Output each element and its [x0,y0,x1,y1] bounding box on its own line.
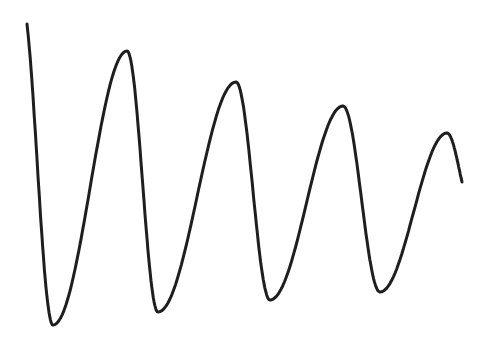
oscillation-line [27,24,462,325]
damped-oscillation-chart [0,0,491,339]
